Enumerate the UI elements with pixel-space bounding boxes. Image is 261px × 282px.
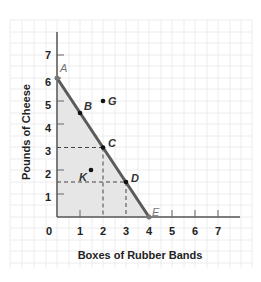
point-c-label: C bbox=[108, 137, 117, 149]
point-k-marker bbox=[89, 168, 94, 173]
x-tick-4: 4 bbox=[146, 225, 153, 237]
point-b-label: B bbox=[84, 100, 92, 112]
point-e-label: E bbox=[152, 206, 160, 218]
point-g-marker bbox=[101, 99, 106, 104]
x-tick-5: 5 bbox=[169, 225, 175, 237]
y-tick-6: 6 bbox=[45, 76, 51, 88]
y-tick-2: 2 bbox=[45, 168, 51, 180]
ppf-chart: A B C D E G K 1 2 3 4 5 6 7 0 1 2 3 4 5 … bbox=[0, 0, 261, 282]
point-d-marker bbox=[124, 180, 129, 185]
point-d-label: D bbox=[131, 172, 139, 184]
point-c-marker bbox=[101, 145, 106, 150]
x-tick-7: 7 bbox=[215, 225, 221, 237]
y-tick-1: 1 bbox=[45, 191, 51, 203]
x-tick-2: 2 bbox=[100, 225, 106, 237]
y-tick-3: 3 bbox=[45, 145, 51, 157]
point-e-marker bbox=[147, 215, 152, 220]
point-b-marker bbox=[78, 111, 83, 116]
y-tick-5: 5 bbox=[45, 99, 51, 111]
x-tick-0: 0 bbox=[46, 225, 52, 237]
x-tick-1: 1 bbox=[77, 225, 83, 237]
point-a-marker bbox=[55, 76, 60, 81]
x-axis-title: Boxes of Rubber Bands bbox=[78, 249, 203, 261]
point-a-label: A bbox=[59, 62, 67, 74]
y-axis-title: Pounds of Cheese bbox=[20, 84, 32, 180]
y-tick-7: 7 bbox=[45, 49, 51, 61]
x-tick-6: 6 bbox=[192, 225, 198, 237]
y-tick-4: 4 bbox=[45, 122, 52, 134]
point-g-label: G bbox=[108, 95, 117, 107]
x-tick-3: 3 bbox=[123, 225, 129, 237]
point-k-label: K bbox=[79, 171, 88, 183]
